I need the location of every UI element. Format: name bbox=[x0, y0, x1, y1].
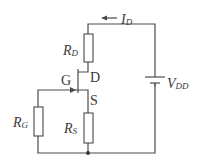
label-rs: RS bbox=[63, 121, 78, 136]
drain-wire bbox=[78, 62, 88, 72]
current-arrow-icon bbox=[101, 16, 107, 21]
label-source: S bbox=[90, 93, 98, 108]
junction-dot bbox=[86, 151, 90, 155]
resistor-rd bbox=[84, 34, 93, 62]
label-gate: G bbox=[61, 73, 71, 88]
resistor-rg bbox=[34, 107, 43, 136]
circuit-diagram: ID RD D G S RG RS VDD bbox=[0, 0, 201, 166]
label-rg: RG bbox=[12, 115, 29, 130]
source-wire bbox=[78, 90, 88, 113]
gate-wire bbox=[38, 90, 78, 107]
label-rd: RD bbox=[62, 43, 79, 58]
label-drain: D bbox=[90, 70, 100, 85]
label-id: ID bbox=[120, 12, 133, 27]
label-vdd: VDD bbox=[167, 76, 189, 91]
resistor-rs bbox=[84, 113, 93, 143]
